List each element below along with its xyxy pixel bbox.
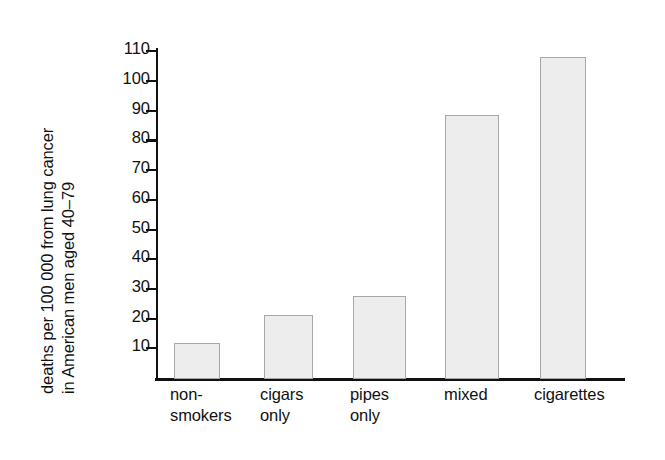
x-label-line: non- <box>170 384 232 405</box>
x-label-line: cigarettes <box>534 384 605 405</box>
x-label-cigars-only: cigarsonly <box>260 384 303 425</box>
y-tick-label: 80 <box>132 129 150 146</box>
x-label-mixed: mixed <box>444 384 488 405</box>
y-axis-title-line-1: deaths per 100 000 from lung cancer <box>37 128 58 394</box>
x-label-line: cigars <box>260 384 303 405</box>
y-tick-label: 20 <box>132 308 150 325</box>
y-tick-label: 70 <box>132 159 150 176</box>
bar-non-smokers <box>174 343 220 379</box>
bar-cigarettes <box>540 57 586 379</box>
bar-pipes-only <box>353 296 406 379</box>
x-label-cigarettes: cigarettes <box>534 384 605 405</box>
bar-chart-figure: deaths per 100 000 from lung cancer in A… <box>0 0 665 460</box>
x-label-line: mixed <box>444 384 488 405</box>
x-label-line: only <box>350 405 389 426</box>
x-label-pipes-only: pipesonly <box>350 384 389 425</box>
x-label-line: smokers <box>170 405 232 426</box>
plot-area: 102030405060708090100110 non-smokersciga… <box>100 20 640 390</box>
bar-cigars-only <box>264 315 313 379</box>
y-tick-label: 100 <box>122 70 150 87</box>
y-tick-label: 110 <box>124 40 150 57</box>
y-tick-label: 10 <box>132 337 150 354</box>
y-tick-label: 30 <box>132 278 150 295</box>
y-tick-label: 60 <box>132 189 150 206</box>
x-label-line: pipes <box>350 384 389 405</box>
y-tick-label: 90 <box>132 100 150 117</box>
y-tick-label: 40 <box>132 248 150 265</box>
bars-group <box>156 20 626 379</box>
y-axis-title-line-2: in American men aged 40–79 <box>58 182 79 394</box>
x-label-line: only <box>260 405 303 426</box>
x-axis-labels: non-smokerscigarsonlypipesonlymixedcigar… <box>156 384 636 434</box>
bar-mixed <box>445 115 499 379</box>
y-tick-label: 50 <box>132 219 150 236</box>
y-axis-title: deaths per 100 000 from lung cancer in A… <box>32 54 84 394</box>
x-label-non-smokers: non-smokers <box>170 384 232 425</box>
